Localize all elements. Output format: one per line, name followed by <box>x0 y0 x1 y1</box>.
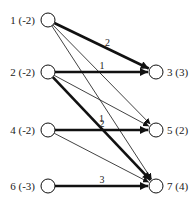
node-label-1: 1 (-2) <box>10 14 35 27</box>
edge-flow-label: 3 <box>100 174 105 185</box>
nodes-layer: 1 (-2)2 (-2)4 (-2)6 (-3)3 (3)5 (2)7 (4) <box>10 13 188 193</box>
node-label-2: 2 (-2) <box>10 66 35 79</box>
network-diagram: 21123 1 (-2)2 (-2)4 (-2)6 (-3)3 (3)5 (2)… <box>0 0 196 203</box>
node-3 <box>149 65 163 79</box>
node-4 <box>41 123 55 137</box>
edge-1-to-7 <box>52 26 152 179</box>
edge-flow-label: 2 <box>100 118 105 129</box>
node-label-4: 4 (-2) <box>10 124 35 137</box>
node-label-7: 7 (4) <box>167 180 188 193</box>
node-6 <box>41 179 55 193</box>
node-1 <box>41 13 55 27</box>
node-label-3: 3 (3) <box>167 66 188 79</box>
node-label-5: 5 (2) <box>167 124 188 137</box>
node-label-6: 6 (-3) <box>10 180 35 193</box>
edges-layer: 21123 <box>52 23 152 186</box>
edge-flow-label: 1 <box>100 60 105 71</box>
edge-flow-label: 2 <box>105 37 110 48</box>
node-7 <box>149 179 163 193</box>
edge-1-to-5 <box>53 25 150 124</box>
node-5 <box>149 123 163 137</box>
node-2 <box>41 65 55 79</box>
